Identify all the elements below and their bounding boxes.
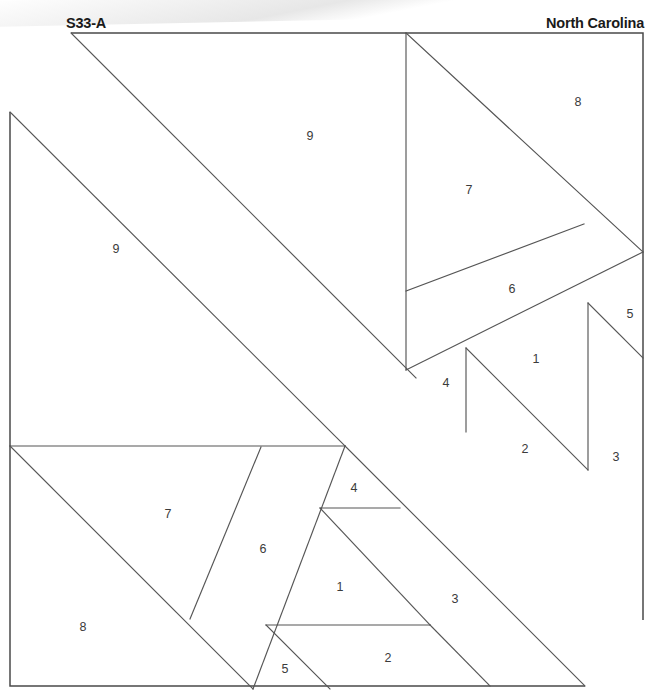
label-6-upper: 6 <box>509 282 516 296</box>
label-7-upper: 7 <box>466 183 473 197</box>
label-2-lower: 2 <box>385 651 392 665</box>
seam-diag-1-3-lower <box>320 508 430 625</box>
label-4-upper: 4 <box>443 376 450 390</box>
seam-band-upper-edge <box>71 33 416 378</box>
block-outer-frame <box>10 33 643 686</box>
label-7-lower: 7 <box>165 507 172 521</box>
piece-number-group: 987651423976413852 <box>80 95 634 676</box>
label-4-lower: 4 <box>351 481 358 495</box>
label-9-upper: 9 <box>307 129 314 143</box>
label-1-lower: 1 <box>337 580 344 594</box>
label-3-upper: 3 <box>613 450 620 464</box>
label-6-lower: 6 <box>260 542 267 556</box>
seam-2-diag-right-lower <box>430 625 490 686</box>
seam-line-group <box>10 33 643 689</box>
seam-5-diag-lower <box>266 625 330 689</box>
label-3-lower: 3 <box>452 592 459 606</box>
seam-6-right-lower <box>253 446 345 689</box>
seam-5-diag-upper <box>588 303 643 358</box>
seam-6-bottom <box>406 252 643 370</box>
seam-band-lower-edge <box>10 112 345 446</box>
pattern-sheet: S33-A North Carolina <box>0 0 652 696</box>
quilt-block-pattern-diagram: 987651423976413852 <box>0 0 652 696</box>
seam-6-left-lower <box>190 447 261 619</box>
label-8-upper: 8 <box>575 95 582 109</box>
label-2-upper: 2 <box>522 442 529 456</box>
label-5-upper: 5 <box>627 307 634 321</box>
label-5-lower: 5 <box>282 662 289 676</box>
seam-diag-8-7 <box>406 33 643 252</box>
seam-diag-7-8-lower <box>10 446 253 689</box>
seam-3-diag-lower <box>345 446 585 686</box>
label-1-upper: 1 <box>533 352 540 366</box>
frame-top-right-path <box>71 33 643 620</box>
label-9-lower: 9 <box>113 242 120 256</box>
seam-6-top <box>406 224 584 291</box>
label-8-lower: 8 <box>80 620 87 634</box>
